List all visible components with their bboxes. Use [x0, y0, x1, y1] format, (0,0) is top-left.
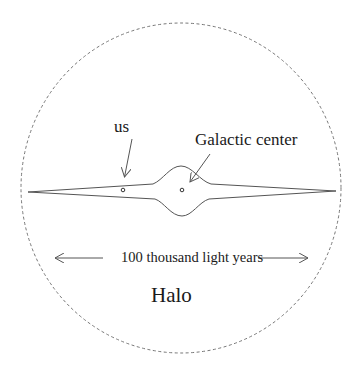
sun-marker	[121, 188, 125, 192]
halo-label: Halo	[151, 285, 192, 306]
galactic-center-label: Galactic center	[195, 131, 297, 148]
us-arrow	[125, 139, 133, 177]
galactic-disk-outline	[28, 166, 336, 216]
galactic-center-marker	[180, 188, 184, 192]
us-label: us	[114, 118, 129, 135]
diagram-canvas	[0, 0, 355, 373]
galaxy-diagram: us Galactic center 100 thousand light ye…	[0, 0, 355, 373]
scale-label: 100 thousand light years	[121, 250, 263, 265]
